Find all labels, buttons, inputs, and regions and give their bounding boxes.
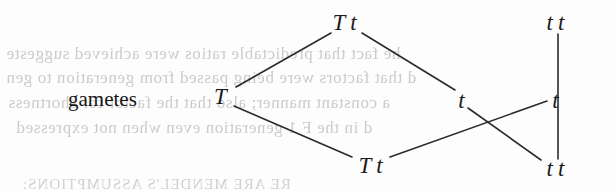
edge-line	[362, 33, 455, 90]
genotype-node-offspring-bottom-right: tt	[547, 157, 566, 180]
allele-symbol: T	[332, 10, 346, 35]
allele-symbol: t	[558, 156, 565, 181]
scanned-page-figure: he fact that predictable ratios were ach…	[0, 0, 615, 191]
allele-symbol: t	[458, 88, 465, 113]
gamete-cross-diagram: Tt tt T t t Tt tt gametes	[0, 0, 615, 191]
genotype-node-gamete-t-right: t	[552, 89, 559, 112]
allele-symbol: t	[558, 10, 565, 35]
genotype-node-parent-top-right: tt	[547, 11, 566, 34]
allele-symbol: T	[214, 84, 228, 109]
gametes-label: gametes	[68, 89, 137, 110]
edge-line	[390, 101, 547, 157]
genotype-node-gamete-T: T	[214, 85, 228, 108]
allele-symbol: t	[547, 156, 554, 181]
allele-symbol: t	[552, 88, 559, 113]
genotype-node-offspring-bottom: Tt	[358, 154, 383, 177]
genotype-node-gamete-t-mid: t	[458, 89, 465, 112]
edge-line	[234, 106, 352, 157]
genotype-node-parent-top: Tt	[332, 11, 357, 34]
allele-symbol: t	[547, 10, 554, 35]
allele-symbol: t	[350, 10, 357, 35]
edge-line	[236, 33, 331, 87]
allele-symbol: T	[358, 153, 372, 178]
allele-symbol: t	[376, 153, 383, 178]
